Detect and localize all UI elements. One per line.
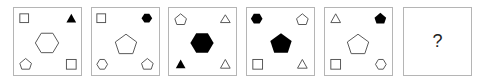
square-outline-icon	[20, 14, 29, 23]
hexagon-filled-icon	[251, 14, 263, 24]
hexagon-outline-icon	[97, 59, 108, 69]
pentagon-outline-icon	[115, 34, 136, 53]
triangle-filled-icon	[176, 59, 186, 68]
pentagon-filled-icon	[375, 13, 387, 24]
pentagon-outline-icon	[297, 14, 309, 25]
panel-5-shapes	[325, 8, 392, 75]
puzzle-panel-answer: ?	[403, 7, 472, 76]
puzzle-panel-4	[246, 7, 315, 76]
triangle-outline-icon	[220, 15, 230, 23]
panel-1-shapes	[14, 8, 81, 75]
pentagon-outline-icon	[20, 58, 32, 69]
triangle-outline-icon	[297, 59, 307, 68]
panel-3-shapes	[169, 8, 236, 75]
hexagon-filled-icon	[190, 33, 213, 52]
pentagon-filled-icon	[270, 33, 291, 52]
triangle-outline-icon	[331, 14, 341, 23]
puzzle-panel-5	[324, 7, 393, 76]
pentagon-outline-icon	[142, 58, 154, 69]
hexagon-outline-icon	[35, 33, 58, 52]
square-outline-icon	[66, 59, 76, 69]
question-mark: ?	[404, 8, 471, 75]
hexagon-filled-icon	[142, 14, 153, 23]
triangle-outline-icon	[220, 59, 230, 68]
square-outline-icon	[331, 59, 341, 69]
square-outline-icon	[253, 59, 263, 69]
panel-2-shapes	[92, 8, 159, 75]
puzzle-panel-3	[168, 7, 237, 76]
square-outline-icon	[97, 14, 106, 23]
hexagon-outline-icon	[375, 59, 386, 69]
pentagon-outline-icon	[175, 14, 187, 25]
puzzle-panel-1	[13, 7, 82, 76]
puzzle-panel-2	[91, 7, 160, 76]
panel-4-shapes	[247, 8, 314, 75]
pentagon-outline-icon	[347, 34, 368, 53]
triangle-filled-icon	[66, 14, 76, 23]
